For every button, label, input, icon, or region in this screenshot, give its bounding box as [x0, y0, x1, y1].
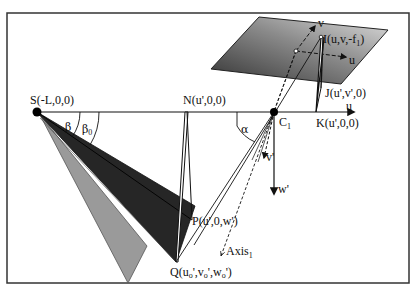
geometry-diagram: S(-L,0,0) N(u',0,0) C1 K(u',0,0) J(u',v'… [0, 0, 415, 296]
label-u-axis: u [346, 99, 352, 113]
point-s-marker [33, 108, 42, 117]
label-image-u: u [349, 53, 355, 67]
label-alpha: α [241, 123, 249, 136]
label-image-v: v [318, 16, 324, 30]
label-p: P(u',0,w') [192, 214, 238, 228]
label-w-prime: w' [278, 182, 289, 196]
image-center-point [294, 49, 298, 53]
point-c1-marker [270, 108, 278, 116]
label-axis1: Axis1 [226, 244, 253, 260]
label-s: S(-L,0,0) [30, 93, 74, 107]
label-k: K(u',0,0) [316, 116, 359, 130]
label-v-prime: v' [266, 150, 274, 164]
label-n: N(u',0,0) [183, 93, 226, 107]
label-beta: β [65, 121, 71, 134]
label-j: J(u',v',0) [325, 86, 366, 100]
